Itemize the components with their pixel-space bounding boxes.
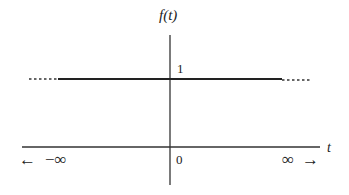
origin-label: 0	[176, 152, 183, 167]
left-arrow-icon: ←	[19, 150, 36, 169]
positive-infinity-label: ∞	[282, 150, 294, 169]
negative-infinity-label: −∞	[45, 150, 67, 169]
x-axis-label: t	[327, 140, 332, 155]
y-axis-label: f(t)	[159, 7, 177, 24]
level-label: 1	[177, 61, 184, 76]
constant-function-diagram: f(t) t 1 0 ← −∞ ∞ →	[0, 0, 349, 195]
right-arrow-icon: →	[302, 150, 319, 169]
